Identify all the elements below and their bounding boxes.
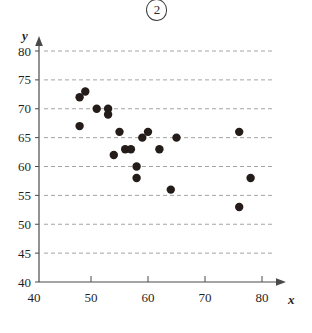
y-tick-label-40: 40 — [18, 275, 31, 290]
data-point — [246, 174, 254, 182]
data-point — [235, 203, 243, 211]
y-tick-label-80: 80 — [18, 44, 31, 59]
data-point — [144, 128, 152, 136]
scatter-plot-figure: 2 404550556065707580 4050607080 y x — [0, 0, 312, 333]
y-axis-label: y — [20, 28, 28, 43]
x-tick-label-50: 50 — [85, 290, 98, 305]
scatter-plot-canvas: 404550556065707580 4050607080 y x — [0, 0, 312, 333]
y-tick-label-45: 45 — [18, 246, 31, 261]
x-tick-label-60: 60 — [142, 290, 155, 305]
data-point — [110, 151, 118, 159]
y-tick-label-65: 65 — [18, 130, 31, 145]
x-axis-label: x — [287, 292, 295, 307]
y-tick-label-75: 75 — [18, 72, 31, 87]
x-tick-label-40: 40 — [28, 290, 41, 305]
x-tick-label-80: 80 — [256, 290, 269, 305]
y-tick-label-60: 60 — [18, 159, 31, 174]
data-point — [155, 145, 163, 153]
data-point — [132, 162, 140, 170]
data-point — [172, 133, 180, 141]
data-point — [75, 122, 83, 130]
y-axis-arrow-icon — [35, 36, 43, 46]
data-points-group — [75, 87, 254, 211]
data-point — [132, 174, 140, 182]
y-axis-ticks-group: 404550556065707580 — [18, 44, 39, 290]
data-point — [235, 128, 243, 136]
data-point — [93, 105, 101, 113]
x-axis-arrow-icon — [276, 278, 286, 286]
data-point — [115, 128, 123, 136]
data-point — [81, 87, 89, 95]
data-point — [104, 110, 112, 118]
data-point — [127, 145, 135, 153]
x-tick-label-70: 70 — [199, 290, 212, 305]
data-point — [167, 185, 175, 193]
y-tick-label-70: 70 — [18, 101, 31, 116]
x-axis-ticks-group: 4050607080 — [28, 276, 269, 305]
y-tick-label-55: 55 — [18, 188, 31, 203]
y-tick-label-50: 50 — [18, 217, 31, 232]
